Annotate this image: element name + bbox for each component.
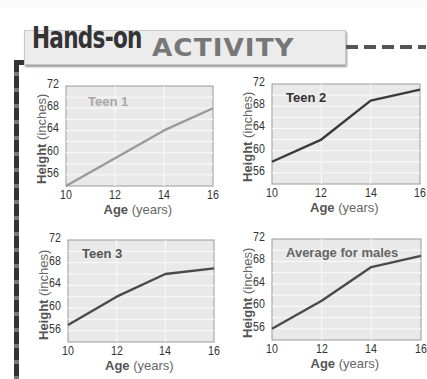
x-tick-label: 10 <box>60 188 72 202</box>
x-tick-label: 12 <box>315 186 327 200</box>
left-dashed-rule <box>14 60 19 379</box>
x-tick-label: 14 <box>159 344 171 358</box>
y-axis-label: Height (inches) <box>240 248 255 338</box>
chart-title: Teen 3 <box>82 246 122 261</box>
y-axis-label: Height (inches) <box>240 92 255 182</box>
x-tick-label: 16 <box>207 188 219 202</box>
x-tick-label: 16 <box>415 342 427 356</box>
x-tick-label: 12 <box>111 344 123 358</box>
x-axis-label: Age (years) <box>105 358 174 373</box>
y-axis-label: Height (inches) <box>34 94 49 184</box>
line-chart-2: Teen 2566064687210121416Age (years)Heigh… <box>272 84 420 184</box>
x-axis-label: Age (years) <box>104 202 173 217</box>
chart-title: Teen 2 <box>286 90 326 105</box>
x-tick-label: 10 <box>266 342 278 356</box>
x-axis-label: Age (years) <box>310 200 379 215</box>
top-strip <box>0 0 426 8</box>
y-tick-label: 72 <box>49 231 61 245</box>
x-tick-label: 10 <box>62 344 74 358</box>
header-dashed-line <box>346 45 426 49</box>
chart-title: Average for males <box>286 245 398 260</box>
y-tick-label: 72 <box>253 230 265 244</box>
header-title-script: Hands-on <box>32 20 142 55</box>
y-axis-label: Height (inches) <box>36 250 51 340</box>
x-tick-label: 14 <box>365 342 377 356</box>
y-tick-label: 72 <box>47 77 59 91</box>
x-tick-label: 16 <box>414 186 426 200</box>
line-chart-1: Teen 1566064687210121416Age (years)Heigh… <box>66 86 213 186</box>
line-chart-3: Teen 3566064687210121416Age (years)Heigh… <box>68 240 214 342</box>
y-tick-label: 72 <box>253 75 265 89</box>
x-tick-label: 14 <box>365 186 377 200</box>
x-tick-label: 10 <box>266 186 278 200</box>
x-tick-label: 16 <box>208 344 220 358</box>
x-tick-label: 12 <box>316 342 328 356</box>
x-axis-label: Age (years) <box>311 356 380 371</box>
x-tick-label: 14 <box>158 188 170 202</box>
x-tick-label: 12 <box>109 188 121 202</box>
line-chart-4: Average for males566064687210121416Age (… <box>272 239 421 340</box>
header-title-block: ACTIVITY <box>152 33 295 62</box>
chart-title: Teen 1 <box>88 94 128 109</box>
